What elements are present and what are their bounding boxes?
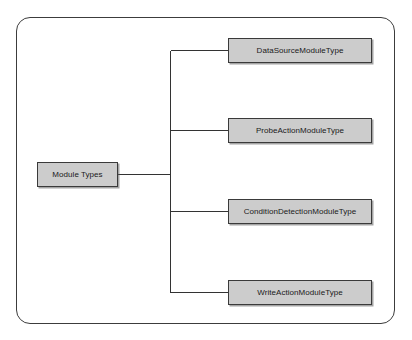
- node-module-types[interactable]: Module Types: [37, 162, 118, 187]
- node-label: DataSourceModuleType: [257, 47, 344, 55]
- node-write-action-module-type[interactable]: WriteActionModuleType: [228, 280, 372, 305]
- node-label: ProbeActionModuleType: [256, 127, 344, 135]
- node-condition-detection-module-type[interactable]: ConditionDetectionModuleType: [228, 199, 372, 224]
- node-data-source-module-type[interactable]: DataSourceModuleType: [228, 38, 372, 63]
- node-label: Module Types: [52, 171, 102, 179]
- node-label: ConditionDetectionModuleType: [244, 208, 357, 216]
- node-label: WriteActionModuleType: [257, 289, 342, 297]
- node-probe-action-module-type[interactable]: ProbeActionModuleType: [228, 118, 372, 143]
- diagram-canvas: Module Types DataSourceModuleType ProbeA…: [0, 0, 412, 340]
